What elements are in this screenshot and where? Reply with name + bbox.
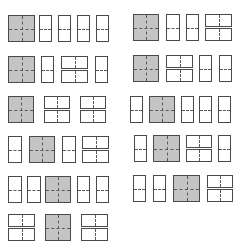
landscape-panel: [82, 150, 109, 163]
portrait-panel: [58, 15, 71, 42]
portrait-panel: [181, 96, 194, 123]
landscape-panel: [44, 110, 70, 123]
landscape-panel: [81, 214, 108, 227]
portrait-panel: [96, 176, 109, 203]
portrait-panel: [133, 175, 146, 202]
main-square-panel: [8, 15, 35, 42]
main-square-panel: [149, 96, 175, 123]
portrait-panel: [134, 135, 147, 162]
landscape-panel: [44, 96, 70, 109]
landscape-panel: [8, 214, 35, 227]
portrait-panel: [186, 14, 199, 41]
landscape-panel: [186, 149, 212, 162]
landscape-panel: [80, 96, 106, 109]
landscape-panel: [81, 228, 108, 241]
main-square-panel: [8, 56, 35, 83]
portrait-panel: [218, 96, 231, 123]
landscape-panel: [61, 56, 88, 69]
main-square-panel: [153, 135, 180, 162]
layout-options-diagram: [0, 0, 243, 245]
portrait-panel: [62, 136, 76, 163]
landscape-panel: [207, 175, 233, 188]
landscape-panel: [8, 228, 35, 241]
main-square-panel: [29, 136, 55, 163]
main-square-panel: [8, 96, 34, 123]
portrait-panel: [218, 135, 231, 162]
portrait-panel: [27, 176, 41, 203]
landscape-panel: [166, 69, 193, 82]
portrait-panel: [199, 96, 212, 123]
landscape-panel: [207, 189, 233, 202]
portrait-panel: [166, 14, 180, 41]
main-square-panel: [133, 55, 159, 82]
main-square-panel: [45, 176, 71, 203]
portrait-panel: [41, 56, 54, 83]
landscape-panel: [186, 135, 212, 148]
portrait-panel: [77, 176, 90, 203]
portrait-panel: [130, 96, 143, 123]
portrait-panel: [96, 15, 109, 42]
portrait-panel: [77, 15, 90, 42]
main-square-panel: [173, 175, 200, 202]
landscape-panel: [80, 110, 106, 123]
portrait-panel: [199, 55, 212, 82]
portrait-panel: [8, 136, 22, 163]
portrait-panel: [95, 56, 108, 83]
main-square-panel: [45, 214, 71, 241]
main-square-panel: [133, 14, 159, 41]
landscape-panel: [166, 55, 193, 68]
landscape-panel: [205, 28, 232, 41]
landscape-panel: [82, 136, 109, 149]
portrait-panel: [39, 15, 52, 42]
portrait-panel: [219, 55, 232, 82]
landscape-panel: [205, 14, 232, 27]
portrait-panel: [153, 175, 166, 202]
portrait-panel: [8, 176, 22, 203]
landscape-panel: [61, 70, 88, 83]
